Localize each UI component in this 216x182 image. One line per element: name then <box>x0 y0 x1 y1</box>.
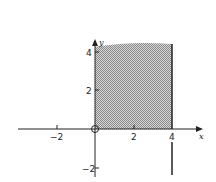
x-axis-label: x <box>199 132 204 141</box>
y-tick-label: −2 <box>82 164 95 174</box>
y-axis-label: y <box>98 38 104 47</box>
x-tick-label: −2 <box>50 132 63 142</box>
y-tick-label: 2 <box>86 86 92 96</box>
x-tick-label: 2 <box>131 132 137 142</box>
y-axis-arrow-icon <box>92 39 98 46</box>
region-diagram: x y −2 2 4 4 2 −2 <box>0 0 216 182</box>
shaded-region <box>95 43 172 129</box>
y-tick-label: 4 <box>86 48 92 58</box>
x-tick-label: 4 <box>169 132 175 142</box>
